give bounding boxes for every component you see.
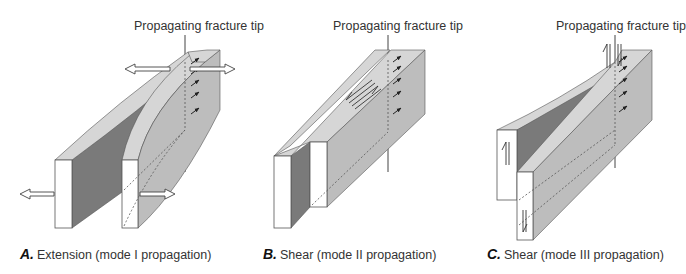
panel-b-caption: B.Shear (mode II propagation): [263, 246, 436, 262]
panel-c-caption: C.Shear (mode III propagation): [487, 246, 664, 262]
panel-c-mode-iii-diagram: [497, 35, 652, 240]
panel-b-tip-label: Propagating fracture tip: [333, 19, 463, 33]
panel-b-mode-ii-diagram: [274, 35, 425, 228]
panel-a-tip-label: Propagating fracture tip: [134, 19, 264, 33]
slab-fracture-face: [291, 142, 310, 228]
upper-slab-front-face: [497, 130, 517, 200]
panel-c-tip-label: Propagating fracture tip: [556, 19, 686, 33]
panel-a-letter: A.: [20, 246, 34, 262]
arrow-up-top-icon: [603, 44, 607, 68]
panel-c-letter: C.: [487, 246, 501, 262]
panel-b-letter: B.: [263, 246, 277, 262]
panel-b-caption-text: Shear (mode II propagation): [280, 248, 436, 262]
left-slab-front-face: [55, 160, 72, 228]
panel-a-extension-diagram: [20, 35, 235, 228]
lower-slab-front-face: [517, 172, 533, 240]
left-slab-front-face: [274, 156, 291, 228]
panel-a-caption-text: Extension (mode I propagation): [37, 248, 211, 262]
right-slab-front-face: [122, 160, 138, 228]
panel-a-caption: A.Extension (mode I propagation): [20, 246, 211, 262]
arrow-left-bottom-icon: [20, 189, 54, 199]
panel-c-caption-text: Shear (mode III propagation): [504, 248, 664, 262]
right-slab-front-face: [310, 142, 327, 207]
